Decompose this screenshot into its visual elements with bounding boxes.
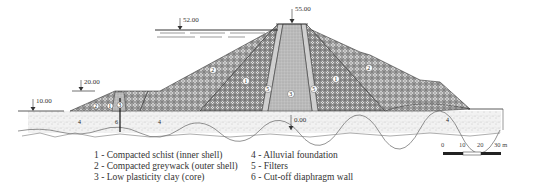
elevation-marker-ground: 10.00: [31, 97, 53, 111]
zone-label-2-upstream: 2: [210, 67, 217, 74]
svg-text:2: 2: [367, 65, 370, 71]
scale-bar: 0 10 20 30 m: [441, 141, 507, 155]
elevation-ground: 10.00: [36, 97, 52, 105]
scale-tick-0: 0: [441, 141, 444, 148]
zone-label-1-downstream: 1: [333, 76, 340, 83]
scale-tick-20: 20: [477, 141, 484, 148]
svg-text:1: 1: [108, 103, 111, 109]
zone-label-3-cofferdam: 3: [117, 102, 123, 108]
legend-right: 4 - Alluvial foundation 5 - Filters 6 - …: [251, 150, 353, 183]
svg-text:4: 4: [446, 117, 449, 123]
scale-tick-10: 10: [459, 141, 466, 148]
zone-label-5-downstream: 5: [311, 86, 318, 93]
svg-text:6: 6: [115, 119, 118, 125]
legend-item-6: 6 - Cut-off diaphragm wall: [251, 172, 353, 183]
zone-label-2-cofferdam: 2: [93, 103, 99, 109]
alluvial-foundation: [18, 109, 503, 153]
zone-label-4-foundation-right: 4: [446, 117, 449, 123]
svg-text:4: 4: [78, 119, 81, 125]
svg-text:3: 3: [289, 91, 292, 97]
elevation-foundation: 0.00: [294, 116, 307, 124]
zone-label-4-foundation-mid: 4: [158, 119, 161, 125]
elevation-marker-crest: 55.00: [290, 5, 312, 24]
legend-item-3: 3 - Low plasticity clay (core): [94, 172, 238, 183]
legend-left: 1 - Compacted schist (inner shell) 2 - C…: [94, 150, 238, 183]
legend-item-4: 4 - Alluvial foundation: [251, 150, 353, 161]
svg-text:1: 1: [334, 76, 337, 82]
svg-text:5: 5: [266, 86, 269, 92]
elevation-marker-cofferdam: 20.00: [79, 78, 101, 91]
svg-text:2: 2: [94, 103, 97, 109]
scale-tick-30: 30 m: [494, 141, 507, 148]
zone-label-3-core: 3: [288, 91, 295, 98]
zone-label-1-upstream: 1: [243, 78, 250, 85]
zone-label-6-cutoff: 6: [115, 119, 118, 125]
zone-label-1-cofferdam: 1: [107, 103, 113, 109]
svg-text:3: 3: [118, 102, 121, 108]
elevation-crest: 55.00: [295, 5, 311, 13]
elevation-cofferdam: 20.00: [84, 78, 100, 86]
zone-label-2-downstream: 2: [366, 65, 373, 72]
elevation-marker-reservoir: 52.00: [178, 16, 200, 30]
svg-text:5: 5: [312, 86, 315, 92]
svg-text:2: 2: [211, 67, 214, 73]
zone-label-4-foundation-left: 4: [78, 119, 81, 125]
zone-label-5-upstream: 5: [265, 86, 272, 93]
legend-item-2: 2 - Compacted greywack (outer shell): [94, 161, 238, 172]
svg-text:1: 1: [244, 78, 247, 84]
svg-text:4: 4: [158, 119, 161, 125]
elevation-reservoir: 52.00: [183, 16, 199, 24]
legend-item-5: 5 - Filters: [251, 161, 353, 172]
legend-item-1: 1 - Compacted schist (inner shell): [94, 150, 238, 161]
reservoir-water: [155, 30, 278, 37]
